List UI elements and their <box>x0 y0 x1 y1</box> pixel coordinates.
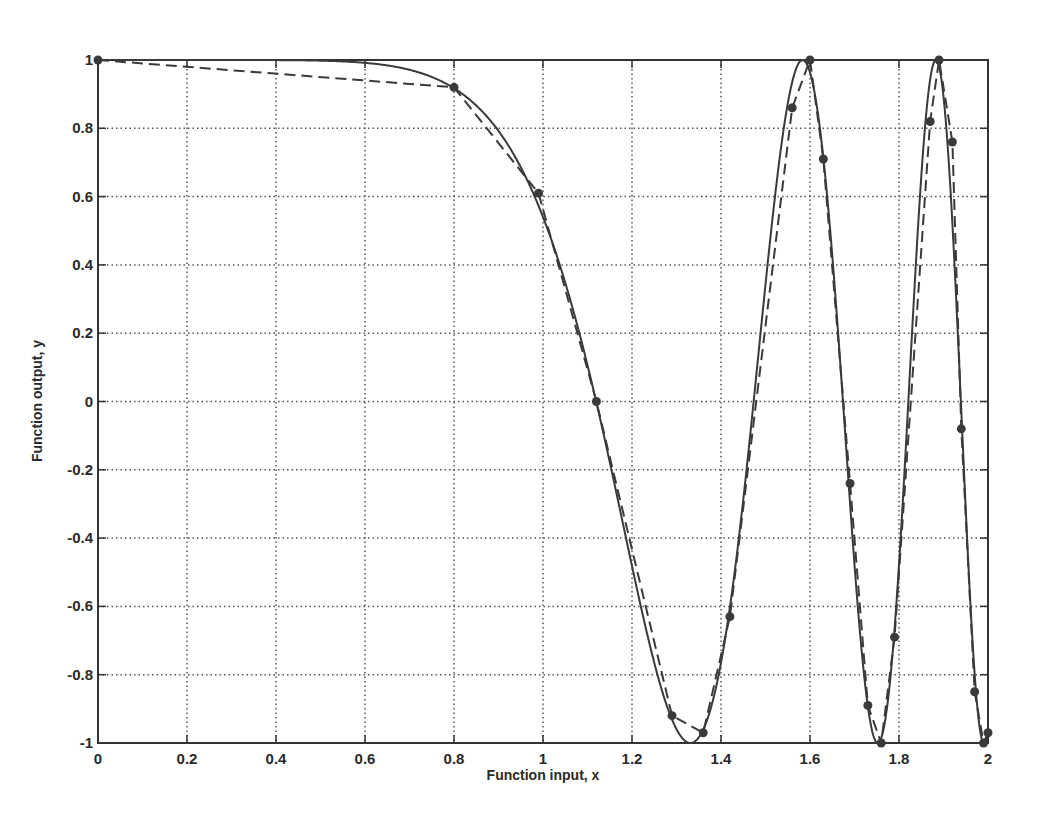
y-tick-label: -0.2 <box>67 461 93 478</box>
sample-point-marker <box>725 612 734 621</box>
x-tick-label: 0.6 <box>355 750 376 767</box>
sample-point-marker <box>806 56 815 65</box>
sample-point-marker <box>788 103 797 112</box>
y-tick-label: 0.8 <box>72 119 93 136</box>
y-tick-label: 0 <box>85 393 93 410</box>
x-tick-label: 0.8 <box>444 750 465 767</box>
sample-point-marker <box>450 83 459 92</box>
y-tick-label: -1 <box>80 734 93 751</box>
y-tick-label: -0.4 <box>67 529 94 546</box>
sample-point-marker <box>592 397 601 406</box>
sample-point-marker <box>534 189 543 198</box>
x-tick-label: 1 <box>539 750 547 767</box>
y-axis-title: Function output, y <box>29 340 45 462</box>
y-tick-label: 0.2 <box>72 324 93 341</box>
y-tick-label: 0.6 <box>72 188 93 205</box>
x-tick-label: 1.4 <box>711 750 733 767</box>
x-tick-label: 1.6 <box>800 750 821 767</box>
sample-point-marker <box>948 137 957 146</box>
sample-point-marker <box>979 739 988 748</box>
sample-point-marker <box>877 739 886 748</box>
sample-point-marker <box>846 479 855 488</box>
line-chart: 00.20.40.60.811.21.41.61.82 10.80.60.40.… <box>0 0 1042 821</box>
sample-point-marker <box>94 56 103 65</box>
sample-point-marker <box>984 728 993 737</box>
sample-point-marker <box>668 711 677 720</box>
x-tick-label: 1.8 <box>889 750 910 767</box>
y-tick-label: -0.8 <box>67 666 93 683</box>
sample-point-marker <box>935 56 944 65</box>
sample-point-marker <box>699 728 708 737</box>
sample-point-marker <box>890 633 899 642</box>
y-tick-label: -0.6 <box>67 597 93 614</box>
x-tick-label: 2 <box>984 750 992 767</box>
x-tick-label: 0.2 <box>177 750 198 767</box>
sample-point-marker <box>863 701 872 710</box>
x-axis-ticks: 00.20.40.60.811.21.41.61.82 <box>94 60 992 767</box>
sample-point-marker <box>970 687 979 696</box>
grid-lines <box>98 60 988 743</box>
x-tick-label: 0.4 <box>266 750 288 767</box>
sample-point-marker <box>819 155 828 164</box>
y-tick-label: 1 <box>85 51 93 68</box>
x-tick-label: 1.2 <box>622 750 643 767</box>
x-tick-label: 0 <box>94 750 102 767</box>
x-axis-title: Function input, x <box>487 767 600 783</box>
sample-point-marker <box>926 117 935 126</box>
sample-point-marker <box>957 424 966 433</box>
y-tick-label: 0.4 <box>72 256 94 273</box>
